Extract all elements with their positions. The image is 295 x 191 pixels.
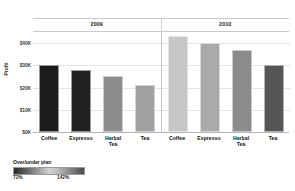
bar-slot-coffee-2009 [33,32,65,132]
bar-herbal-tea-2010[interactable] [232,50,252,132]
legend-gradient-ramp[interactable] [13,167,85,175]
bar-slot-herbal-tea-2009 [97,32,129,132]
y-axis-label: Profit [3,49,9,89]
profit-bar-chart: 2009 2010 $40K $30K $20K $10K $0K Profit [0,0,295,191]
x-label-tea-2009: Tea [129,134,161,154]
x-label-text: Espresso [65,135,97,141]
bar-tea-2009[interactable] [135,85,155,132]
bar-espresso-2010[interactable] [200,43,220,132]
x-label-text: Coffee [161,135,193,141]
bar-coffee-2009[interactable] [39,65,59,132]
x-label-coffee-2010: Coffee [161,134,193,154]
bar-slot-tea-2009 [129,32,161,132]
bar-slot-espresso-2010 [194,32,226,132]
x-label-text: Espresso [193,135,225,141]
x-label-text-line2: Tea [97,141,129,147]
panel-2009 [33,32,161,132]
legend-title: Over/under plan [13,159,87,165]
panel-header-band: 2009 2010 [33,18,289,31]
y-tick-40k: $40K [3,41,31,46]
bar-coffee-2010[interactable] [168,36,188,132]
legend-max-label: 142% [57,175,69,180]
plot-area [33,32,289,132]
bar-group-2009 [33,32,161,132]
x-axis-baseline [33,132,289,133]
x-label-text: Coffee [33,135,65,141]
panel-header-2010: 2010 [162,18,290,31]
x-label-espresso-2010: Espresso [193,134,225,154]
bar-espresso-2009[interactable] [71,70,91,132]
x-labels-2009: Coffee Espresso HerbalTea Tea [33,134,161,154]
panel-2010 [161,32,290,132]
x-label-herbal-tea-2009: HerbalTea [97,134,129,154]
x-labels-2010: Coffee Espresso HerbalTea Tea [161,134,289,154]
legend-min-label: 72% [13,175,23,180]
legend: Over/under plan 72% 142% [13,159,87,183]
panel-header-2009: 2009 [33,18,162,31]
bar-herbal-tea-2009[interactable] [103,76,123,132]
bar-group-2010 [162,32,290,132]
x-label-text: Tea [257,135,289,141]
x-label-coffee-2009: Coffee [33,134,65,154]
y-tick-10k: $10K [3,107,31,112]
x-axis-labels: Coffee Espresso HerbalTea Tea Coffee Esp… [33,134,289,154]
x-label-tea-2010: Tea [257,134,289,154]
bar-slot-espresso-2009 [65,32,97,132]
x-label-herbal-tea-2010: HerbalTea [225,134,257,154]
x-label-text: Tea [129,135,161,141]
y-tick-0k: $0K [3,130,31,135]
x-label-espresso-2009: Espresso [65,134,97,154]
bar-slot-coffee-2010 [162,32,194,132]
bar-slot-tea-2010 [258,32,290,132]
legend-scale: 72% 142% [13,175,87,183]
bar-slot-herbal-tea-2010 [226,32,258,132]
bar-tea-2010[interactable] [264,65,284,132]
x-label-text-line2: Tea [225,141,257,147]
